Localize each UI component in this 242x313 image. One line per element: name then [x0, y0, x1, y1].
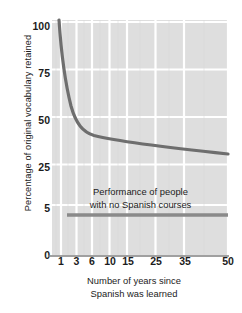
- x-axis-title-line-2: Spanish was learned: [34, 288, 234, 301]
- x-axis-tick-labels: 1 3 6 10 15 25 35 50: [0, 256, 242, 272]
- x-tick-50: 50: [222, 256, 234, 267]
- vertical-gridlines: [61, 20, 228, 255]
- x-tick-15: 15: [122, 256, 134, 267]
- y-tick-25: 25: [24, 162, 50, 173]
- x-axis-title: Number of years since Spanish was learne…: [34, 275, 234, 300]
- y-tick-50: 50: [24, 115, 50, 126]
- control-group-annotation: Performance of people with no Spanish co…: [58, 186, 223, 211]
- chart-canvas: [52, 20, 229, 255]
- x-tick-6: 6: [89, 256, 95, 267]
- y-tick-5: 5: [24, 203, 50, 214]
- y-tick-75: 75: [24, 68, 50, 79]
- x-tick-35: 35: [179, 256, 191, 267]
- x-axis-title-line-1: Number of years since: [34, 275, 234, 288]
- x-tick-10: 10: [104, 256, 116, 267]
- y-tick-100: 100: [24, 21, 50, 32]
- retention-curve: [59, 20, 228, 154]
- background-texture: [56, 20, 204, 255]
- x-tick-3: 3: [74, 256, 80, 267]
- x-tick-1: 1: [58, 256, 64, 267]
- plot-area: [52, 20, 229, 255]
- horizontal-gridlines: [52, 22, 229, 205]
- annotation-line-1: Performance of people: [58, 186, 223, 199]
- annotation-line-2: with no Spanish courses: [58, 199, 223, 212]
- forgetting-curve-chart: Percentage of original vocabulary retain…: [0, 0, 242, 313]
- x-tick-25: 25: [150, 256, 162, 267]
